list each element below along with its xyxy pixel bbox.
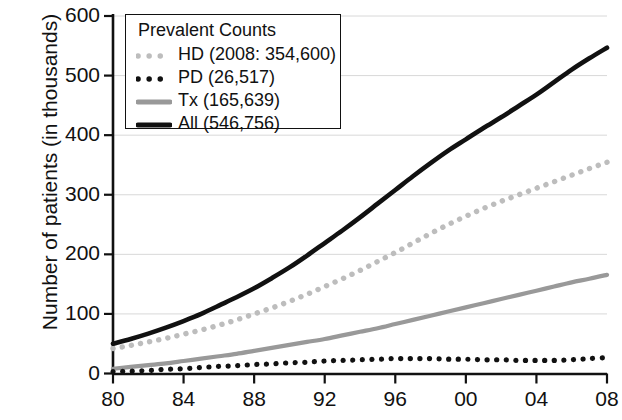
- legend-swatch-pd-icon: [136, 66, 172, 90]
- legend-swatch-all-icon: [136, 112, 172, 136]
- y-tick-label: 400: [40, 122, 100, 146]
- x-tick-label: 08: [582, 387, 622, 411]
- legend: Prevalent Counts HD (2008: 354,600)PD (2…: [125, 14, 341, 129]
- y-tick-label: 0: [40, 361, 100, 385]
- legend-title: Prevalent Counts: [138, 20, 276, 41]
- chart-container: Number of patients (in thousands) 010020…: [0, 0, 622, 420]
- legend-label: All (546,756): [178, 113, 280, 134]
- x-tick-label: 84: [159, 387, 209, 411]
- legend-swatch-hd-icon: [136, 43, 172, 67]
- legend-label: HD (2008: 354,600): [178, 44, 336, 65]
- x-tick-label: 88: [229, 387, 279, 411]
- y-tick-label: 500: [40, 63, 100, 87]
- y-tick-label: 300: [40, 182, 100, 206]
- x-tick-label: 00: [441, 387, 491, 411]
- x-tick-label: 92: [300, 387, 350, 411]
- legend-item-hd[interactable]: HD (2008: 354,600): [136, 43, 336, 67]
- x-tick-label: 80: [88, 387, 138, 411]
- legend-label: Tx (165,639): [178, 90, 280, 111]
- x-tick-label: 04: [511, 387, 561, 411]
- y-tick-label: 200: [40, 241, 100, 265]
- x-tick-label: 96: [370, 387, 420, 411]
- legend-item-tx[interactable]: Tx (165,639): [136, 89, 336, 113]
- legend-swatch-tx-icon: [136, 89, 172, 113]
- y-tick-label: 600: [40, 3, 100, 27]
- legend-item-all[interactable]: All (546,756): [136, 112, 336, 136]
- y-tick-label: 100: [40, 301, 100, 325]
- legend-item-pd[interactable]: PD (26,517): [136, 66, 336, 90]
- legend-label: PD (26,517): [178, 67, 275, 88]
- y-tick-marks: [104, 16, 113, 374]
